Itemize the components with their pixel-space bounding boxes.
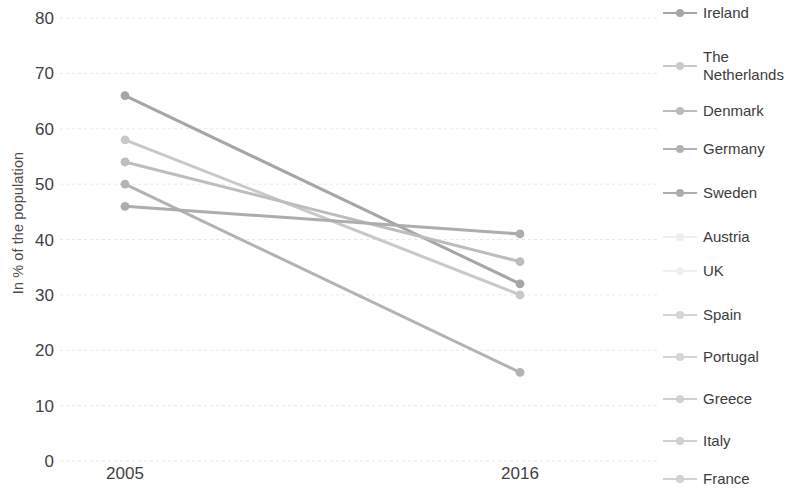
y-tick-50: 50 — [8, 176, 54, 193]
y-tick-20: 20 — [8, 342, 54, 359]
legend-swatch-icon — [663, 394, 697, 404]
legend-swatch-icon — [663, 266, 697, 276]
y-tick-60: 60 — [8, 120, 54, 137]
legend-swatch-icon — [663, 61, 697, 71]
x-tick-2016: 2016 — [501, 464, 539, 484]
legend-item-spain[interactable]: Spain — [663, 306, 805, 324]
legend-label: Sweden — [703, 184, 805, 202]
legend-item-denmark[interactable]: Denmark — [663, 102, 805, 120]
data-point-end — [516, 257, 525, 266]
data-point-start — [121, 180, 130, 189]
data-point-start — [121, 135, 130, 144]
line-segment — [125, 96, 520, 284]
legend-swatch-icon — [663, 8, 697, 18]
legend-label: Denmark — [703, 102, 805, 120]
legend-swatch-icon — [663, 188, 697, 198]
data-point-end — [516, 230, 525, 239]
legend-swatch-icon — [663, 232, 697, 242]
legend-item-france[interactable]: France — [663, 470, 805, 488]
legend-label: Italy — [703, 432, 805, 450]
slope-chart: In % of the population 80706050403020100… — [0, 0, 809, 490]
legend-label: Ireland — [703, 4, 805, 22]
data-point-end — [516, 290, 525, 299]
legend-swatch-icon — [663, 106, 697, 116]
legend-label: France — [703, 470, 805, 488]
series-lines — [60, 0, 660, 490]
legend-label: The Netherlands — [703, 48, 805, 83]
x-tick-2005: 2005 — [106, 464, 144, 484]
legend-swatch-icon — [663, 352, 697, 362]
legend-swatch-icon — [663, 144, 697, 154]
legend-label: UK — [703, 262, 805, 280]
data-point-start — [121, 91, 130, 100]
y-tick-40: 40 — [8, 231, 54, 248]
legend-item-greece[interactable]: Greece — [663, 390, 805, 408]
legend-label: Germany — [703, 140, 805, 158]
y-tick-30: 30 — [8, 286, 54, 303]
legend-label: Austria — [703, 228, 805, 246]
legend-label: Portugal — [703, 348, 805, 366]
data-point-start — [121, 158, 130, 167]
y-axis-tick-labels: 80706050403020100 — [0, 0, 54, 490]
legend-item-sweden[interactable]: Sweden — [663, 184, 805, 202]
y-tick-0: 0 — [8, 453, 54, 470]
legend-item-austria[interactable]: Austria — [663, 228, 805, 246]
line-segment — [125, 140, 520, 295]
y-tick-80: 80 — [8, 10, 54, 27]
series-the-netherlands — [121, 135, 525, 299]
legend-item-italy[interactable]: Italy — [663, 432, 805, 450]
legend-item-portugal[interactable]: Portugal — [663, 348, 805, 366]
data-point-end — [516, 368, 525, 377]
legend-item-ireland[interactable]: Ireland — [663, 4, 805, 22]
legend-item-the-netherlands[interactable]: The Netherlands — [663, 48, 805, 83]
plot-area: 20052016 — [60, 0, 660, 490]
data-point-end — [516, 279, 525, 288]
data-point-start — [121, 202, 130, 211]
legend-item-germany[interactable]: Germany — [663, 140, 805, 158]
legend-label: Greece — [703, 390, 805, 408]
legend-swatch-icon — [663, 436, 697, 446]
legend-label: Spain — [703, 306, 805, 324]
series-ireland — [121, 91, 525, 288]
y-tick-10: 10 — [8, 397, 54, 414]
legend-swatch-icon — [663, 310, 697, 320]
series-sweden — [121, 202, 525, 238]
y-tick-70: 70 — [8, 65, 54, 82]
legend: IrelandThe NetherlandsDenmarkGermanySwed… — [663, 0, 809, 490]
legend-item-uk[interactable]: UK — [663, 262, 805, 280]
legend-swatch-icon — [663, 474, 697, 484]
